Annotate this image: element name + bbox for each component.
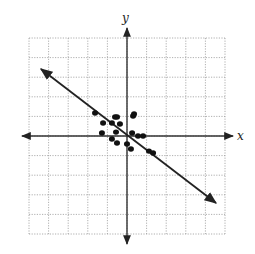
data-point [109, 120, 115, 125]
data-point [129, 130, 135, 135]
data-point [113, 129, 119, 134]
data-point [140, 133, 146, 138]
data-point [130, 113, 136, 118]
data-point [114, 114, 120, 119]
y-axis-label: y [121, 11, 129, 25]
scatter-plot: x y [0, 0, 255, 254]
data-point [100, 120, 106, 125]
data-point [117, 121, 123, 126]
x-axis-label: x [237, 129, 244, 143]
data-point [114, 140, 120, 145]
data-point [150, 150, 156, 155]
data-point [124, 141, 130, 146]
data-point [99, 130, 105, 135]
data-point [128, 146, 134, 151]
data-point [109, 136, 115, 141]
data-point [92, 110, 98, 115]
axes: x y [22, 11, 244, 244]
